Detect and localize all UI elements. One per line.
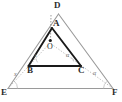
- vertex-label-d: D: [54, 1, 61, 10]
- vertex-label-o: O: [47, 43, 53, 51]
- angle-label-f: α: [93, 70, 96, 76]
- angle-arc-e: [14, 81, 17, 88]
- angle-label-c: α: [66, 52, 69, 58]
- vertex-label-f: F: [112, 88, 118, 97]
- angle-label-b: x: [34, 52, 37, 58]
- geometry-figure: D E F A B C O x x α α: [0, 0, 122, 102]
- edge-ac: [52, 28, 81, 66]
- construction-lines: [8, 15, 113, 89]
- vertex-label-c: C: [78, 66, 85, 75]
- vertex-label-b: B: [27, 66, 33, 75]
- angle-label-e: x: [14, 71, 17, 77]
- geometry-canvas: [0, 0, 122, 102]
- angle-arc-b: [36, 59, 38, 63]
- angle-arc-f: [104, 81, 108, 88]
- vertex-label-e: E: [1, 88, 7, 97]
- vertex-label-a: A: [53, 19, 60, 28]
